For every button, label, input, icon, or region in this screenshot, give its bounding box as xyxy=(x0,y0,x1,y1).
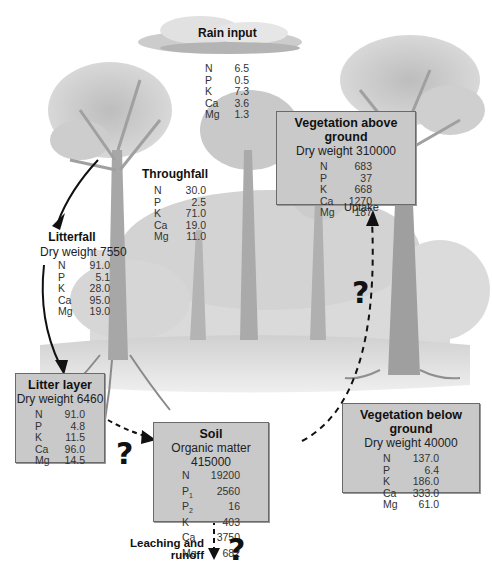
litterfall-subtitle: Dry weight 7550 xyxy=(40,245,127,259)
box-subtitle: Organic matter 415000 xyxy=(154,441,268,469)
nutrient-row: N30.0 xyxy=(154,185,206,197)
nutrient-row: N137.0 xyxy=(383,453,439,465)
nutrient-row: Mg1.3 xyxy=(205,109,249,121)
nutrient-row: K403 xyxy=(182,517,240,533)
nutrient-row: Mg61.0 xyxy=(383,499,439,511)
nutrient-row: K71.0 xyxy=(154,208,206,220)
uptake-label: Uptake xyxy=(344,201,379,213)
box-nutrients: N91.0 P4.8 K11.5 Ca96.0 Mg14.5 xyxy=(35,409,85,467)
throughfall-title: Throughfall xyxy=(142,167,208,181)
decomposition-question-mark: ? xyxy=(116,436,133,471)
nutrient-row: K7.3 xyxy=(205,86,249,98)
nutrient-row: P216 xyxy=(182,501,240,517)
litter-layer-box: Litter layer Dry weight 6460 N91.0 P4.8 … xyxy=(15,373,105,463)
box-title: Soil xyxy=(154,427,268,441)
nutrient-row: K186.0 xyxy=(383,476,439,488)
litterfall-title: Litterfall xyxy=(32,230,112,244)
box-title: Vegetation below ground xyxy=(343,408,479,436)
nutrient-row: K11.5 xyxy=(35,432,85,444)
nutrient-row: N91.0 xyxy=(35,409,85,421)
soil-box: Soil Organic matter 415000 N19200 P12560… xyxy=(153,422,269,522)
nutrient-row: K668 xyxy=(320,184,372,196)
nutrient-row: N19200 xyxy=(182,470,240,486)
nutrient-row: N91.0 xyxy=(58,260,110,272)
box-nutrients: N137.0 P6.4 K186.0 Ca333.0 Mg61.0 xyxy=(383,453,439,511)
nutrient-row: N683 xyxy=(320,161,372,173)
leaching-line-1: Leaching and xyxy=(130,537,204,549)
litterfall-label: Litterfall xyxy=(32,230,112,244)
rain-input-nutrients: N6.5 P0.5 K7.3 Ca3.6 Mg1.3 xyxy=(205,63,249,121)
leaching-question-mark: ? xyxy=(228,532,245,567)
vegetation-above-ground-box: Vegetation above ground Dry weight 31000… xyxy=(276,111,416,205)
nutrient-row: K28.0 xyxy=(58,283,110,295)
box-subtitle: Dry weight 40000 xyxy=(343,436,479,450)
leaching-label: Leaching and runoff xyxy=(130,537,204,561)
box-subtitle: Dry weight 6460 xyxy=(16,392,104,406)
nutrient-row: P12560 xyxy=(182,486,240,502)
litterfall-arrow xyxy=(58,160,98,222)
leaching-line-2: runoff xyxy=(130,549,204,561)
box-title: Litter layer xyxy=(16,378,104,392)
nutrient-row: N6.5 xyxy=(205,63,249,75)
litterfall-nutrients: N91.0 P5.1 K28.0 Ca95.0 Mg19.0 xyxy=(58,260,110,318)
box-subtitle: Dry weight 310000 xyxy=(277,144,415,158)
nutrient-row: Mg19.0 xyxy=(58,306,110,318)
throughfall-nutrients: N30.0 P2.5 K71.0 Ca19.0 Mg11.0 xyxy=(154,185,206,243)
box-title: Vegetation above ground xyxy=(277,116,415,144)
nutrient-row: Mg14.5 xyxy=(35,455,85,467)
uptake-question-mark: ? xyxy=(352,275,369,310)
rain-input-title: Rain input xyxy=(198,26,257,40)
vegetation-below-ground-box: Vegetation below ground Dry weight 40000… xyxy=(342,403,480,493)
nutrient-row: Mg11.0 xyxy=(154,231,206,243)
